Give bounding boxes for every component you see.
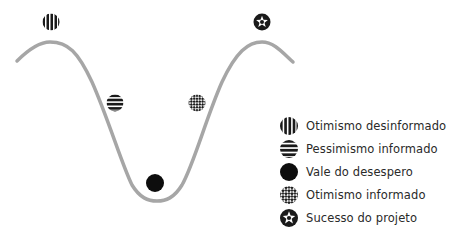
legend-label: Pessimismo informado <box>306 142 438 156</box>
horizontal-stripes-circle-icon <box>107 95 124 113</box>
legend: Otimismo desinformado Pessimismo informa… <box>279 114 446 229</box>
star-circle-icon <box>280 209 298 227</box>
legend-item-uninformed-optimism: Otimismo desinformado <box>279 114 446 137</box>
legend-item-project-success: Sucesso do projeto <box>279 206 446 229</box>
checker-circle-icon <box>280 186 298 204</box>
legend-item-informed-pessimism: Pessimismo informado <box>279 137 446 160</box>
legend-label: Otimismo informado <box>306 188 426 202</box>
legend-item-informed-optimism: Otimismo informado <box>279 183 446 206</box>
vertical-stripes-circle-icon <box>280 117 298 135</box>
legend-label: Vale do desespero <box>306 165 413 179</box>
vertical-stripes-circle-icon <box>43 14 61 31</box>
star-circle-icon <box>254 14 271 31</box>
checker-circle-icon <box>189 95 206 112</box>
solid-circle-icon <box>280 163 298 181</box>
legend-label: Otimismo desinformado <box>306 119 446 133</box>
solid-circle-icon <box>146 174 164 192</box>
horizontal-stripes-circle-icon <box>280 140 298 158</box>
legend-item-valley-of-despair: Vale do desespero <box>279 160 446 183</box>
legend-label: Sucesso do projeto <box>306 211 417 225</box>
